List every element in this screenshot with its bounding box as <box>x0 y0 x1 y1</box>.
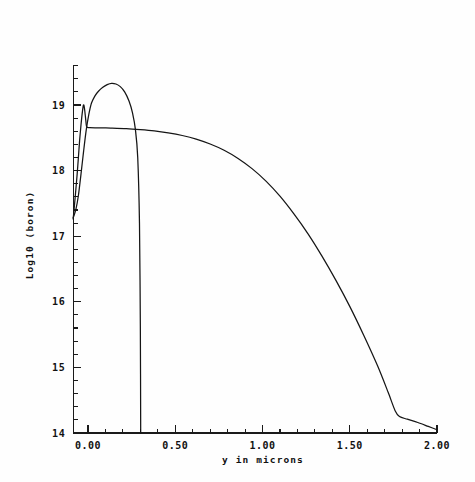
y-tick-label: 17 <box>52 231 65 242</box>
boron-profile-chart: 0.000.501.001.502.00141516171819 y in mi… <box>0 0 475 482</box>
x-tick-label: 1.00 <box>249 440 275 451</box>
y-tick-label: 18 <box>52 165 65 176</box>
x-tick-label: 2.00 <box>424 440 450 451</box>
y-tick-label: 16 <box>52 296 65 307</box>
series-implanted-profile <box>73 83 141 433</box>
y-tick-label: 14 <box>52 428 65 439</box>
y-axis-title: Log10 (boron) <box>24 191 35 280</box>
series-diffused-profile <box>73 105 437 430</box>
chart-container: 0.000.501.001.502.00141516171819 y in mi… <box>0 0 475 482</box>
x-axis-title: y in microns <box>222 454 304 465</box>
x-tick-label: 0.50 <box>162 440 188 451</box>
y-tick-label: 15 <box>52 362 65 373</box>
data-series <box>73 83 437 433</box>
y-tick-label: 19 <box>52 100 65 111</box>
x-tick-label: 0.00 <box>75 440 101 451</box>
x-tick-label: 1.50 <box>337 440 363 451</box>
